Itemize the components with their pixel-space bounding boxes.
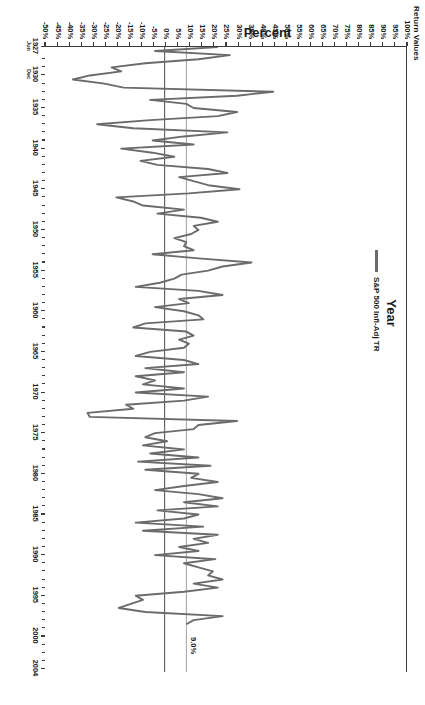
y-axis-tick-label: 15% xyxy=(198,24,207,42)
x-axis-tick-mark xyxy=(43,408,46,409)
x-axis-tick-mark xyxy=(43,660,46,661)
y-axis-tick-label: -50% xyxy=(41,22,50,42)
x-axis-tick-mark xyxy=(43,530,46,531)
x-axis-tick-mark xyxy=(43,99,46,100)
x-axis-tick-mark xyxy=(43,375,46,376)
x-axis-tick-mark xyxy=(43,180,46,181)
chart-canvas: Return Values 100%95%90%85%80%75%70%65%6… xyxy=(0,0,425,705)
x-axis-tick-mark xyxy=(43,457,46,458)
x-axis-tick-mark xyxy=(43,261,46,262)
x-axis-tick-mark xyxy=(43,579,46,580)
x-axis-tick-label: 1985 xyxy=(31,505,40,521)
x-axis-tick-mark xyxy=(43,83,46,84)
x-axis-tick-mark xyxy=(43,278,46,279)
y-axis-tick-label: 85% xyxy=(367,24,376,42)
x-axis-tick-mark xyxy=(43,253,46,254)
x-axis-tick-mark xyxy=(43,302,46,303)
x-axis-tick-mark xyxy=(41,595,45,596)
x-axis-tick-mark xyxy=(43,497,46,498)
x-axis-tick-mark xyxy=(43,139,46,140)
x-axis-tick-mark xyxy=(43,286,46,287)
x-axis-tick-mark xyxy=(43,644,46,645)
x-axis-tick-label: 1950 xyxy=(31,221,40,237)
x-axis-tick-mark xyxy=(43,652,46,653)
x-axis-tick-mark xyxy=(43,156,46,157)
x-axis-tick-mark xyxy=(43,603,46,604)
x-axis-tick-mark xyxy=(43,440,46,441)
series-svg xyxy=(45,47,406,672)
x-axis-tick-mark xyxy=(43,131,46,132)
x-axis-tick-mark xyxy=(43,66,46,67)
x-axis-tick-mark xyxy=(43,619,46,620)
x-axis-label: Year xyxy=(384,0,399,626)
x-axis-tick-mark xyxy=(43,123,46,124)
x-axis-tick-mark xyxy=(41,635,45,636)
x-axis-tick-mark xyxy=(41,473,45,474)
x-axis-tick-label: 1927 xyxy=(31,38,40,54)
x-axis-tick-mark xyxy=(41,148,45,149)
y-axis-tick-label: 80% xyxy=(355,24,364,42)
x-axis-tick-mark xyxy=(43,505,46,506)
y-axis-tick-label: -15% xyxy=(125,22,134,42)
plot-inner xyxy=(45,47,406,672)
legend-label-sp500: S&P 500 Infl-Adj TR xyxy=(372,277,381,352)
x-axis-tick-mark xyxy=(43,326,46,327)
x-axis-tick-mark xyxy=(41,229,45,230)
x-axis-tick-mark xyxy=(41,310,45,311)
x-axis-tick-mark xyxy=(43,465,46,466)
x-axis-tick-mark xyxy=(43,562,46,563)
y-axis-tick-label: 5% xyxy=(174,28,183,42)
x-axis-tick-mark xyxy=(43,489,46,490)
x-axis-tick-label: 1960 xyxy=(31,302,40,318)
x-axis-tick-mark xyxy=(43,367,46,368)
y-axis-tick-label: -25% xyxy=(101,22,110,42)
x-axis-tick-label: 1945 xyxy=(31,180,40,196)
x-axis-tick-mark xyxy=(43,237,46,238)
mean-annotation-label: 9.0% xyxy=(189,637,198,654)
x-axis-tick-mark xyxy=(41,668,45,669)
x-axis-tick-mark xyxy=(43,164,46,165)
x-axis-tick-mark xyxy=(43,538,46,539)
y-axis-tick-label: -45% xyxy=(53,22,62,42)
x-axis-tick-mark xyxy=(41,392,45,393)
x-axis-tick-mark xyxy=(41,270,45,271)
x-axis-tick-mark xyxy=(43,400,46,401)
x-axis-tick-mark xyxy=(43,522,46,523)
x-axis-tick-mark xyxy=(41,107,45,108)
x-axis-tick-label: 1980 xyxy=(31,465,40,481)
x-axis-tick-sublabel: Dec xyxy=(26,69,32,79)
x-axis-tick-mark xyxy=(43,58,46,59)
x-axis-tick-label: 2004 xyxy=(31,660,40,676)
x-axis-tick-label: 1940 xyxy=(31,139,40,155)
x-axis-tick-mark xyxy=(43,318,46,319)
x-axis: 1927Jun1930Dec19351940194519501955196019… xyxy=(3,46,45,672)
y-axis-tick-label: 100% xyxy=(403,20,412,42)
y-axis-tick-label: -10% xyxy=(138,22,147,42)
x-axis-tick-mark xyxy=(43,587,46,588)
plot-area: 9.0% xyxy=(45,46,407,672)
x-axis-tick-label: 1990 xyxy=(31,546,40,562)
x-axis-tick-mark xyxy=(43,245,46,246)
x-axis-tick-mark xyxy=(43,343,46,344)
y-axis-label: Percent xyxy=(208,25,328,40)
x-axis-tick-mark xyxy=(43,213,46,214)
x-axis-tick-label: 1935 xyxy=(31,99,40,115)
series-line xyxy=(73,47,273,624)
x-axis-tick-mark xyxy=(43,627,46,628)
x-axis-tick-mark xyxy=(43,416,46,417)
x-axis-tick-mark xyxy=(43,359,46,360)
x-axis-tick-mark xyxy=(41,74,45,75)
y-axis-tick-label: 0% xyxy=(162,28,171,42)
x-axis-tick-mark xyxy=(43,611,46,612)
x-axis-tick-mark xyxy=(41,513,45,514)
x-axis-tick-mark xyxy=(43,448,46,449)
y-axis-tick-label: -30% xyxy=(89,22,98,42)
x-axis-tick-mark xyxy=(41,432,45,433)
x-axis-tick-mark xyxy=(41,554,45,555)
x-axis-tick-label: 1955 xyxy=(31,261,40,277)
x-axis-tick-mark xyxy=(43,172,46,173)
x-axis-tick-mark xyxy=(43,91,46,92)
x-axis-tick-label: 1970 xyxy=(31,383,40,399)
x-axis-tick-mark xyxy=(43,335,46,336)
x-axis-tick-mark xyxy=(43,294,46,295)
